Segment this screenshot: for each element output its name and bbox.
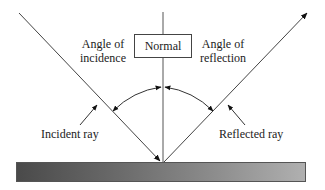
angle-of-reflection-label: Angle of reflection <box>200 37 246 65</box>
angle-of-incidence-arc <box>113 87 161 111</box>
diagram-lines <box>0 0 325 190</box>
angle-of-reflection-arc <box>165 87 213 111</box>
angle-of-incidence-line2: incidence <box>80 51 126 65</box>
incident-ray-pointer <box>80 105 97 125</box>
normal-label: Normal <box>145 39 182 54</box>
angle-of-incidence-line1: Angle of <box>80 37 126 51</box>
angle-of-incidence-label: Angle of incidence <box>80 37 126 65</box>
reflected-ray-pointer <box>228 105 245 125</box>
reflected-ray-label: Reflected ray <box>219 127 283 141</box>
angle-of-reflection-line2: reflection <box>200 51 246 65</box>
angle-of-reflection-line1: Angle of <box>200 37 246 51</box>
incident-ray-label: Incident ray <box>41 127 99 141</box>
reflection-diagram: Normal Angle of incidence Angle of refle… <box>0 0 325 190</box>
normal-label-box: Normal <box>134 34 192 58</box>
